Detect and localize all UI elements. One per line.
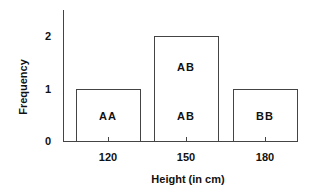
- y-tick-label-2: 2: [42, 30, 54, 42]
- bar-annotation-bb: BB: [233, 110, 297, 122]
- histogram-chart: AA AB AB BB 120 150 180 0 1 2 Height (in…: [0, 0, 311, 196]
- y-tick-label-0: 0: [42, 135, 54, 147]
- x-tick-120: [108, 137, 109, 142]
- y-axis: [63, 10, 64, 141]
- bar-annotation-ab-bottom: AB: [154, 110, 218, 122]
- y-axis-label: Frequency: [17, 47, 29, 127]
- x-tick-150: [186, 137, 187, 142]
- x-tick-180: [265, 137, 266, 142]
- x-tick-label-180: 180: [245, 151, 285, 163]
- x-tick-label-150: 150: [166, 151, 206, 163]
- bar-annotation-ab-top: AB: [154, 61, 218, 73]
- bar-annotation-aa: AA: [76, 110, 140, 122]
- y-tick-label-1: 1: [42, 83, 54, 95]
- x-axis-label: Height (in cm): [128, 173, 248, 185]
- x-tick-label-120: 120: [88, 151, 128, 163]
- bar-150: [154, 36, 219, 142]
